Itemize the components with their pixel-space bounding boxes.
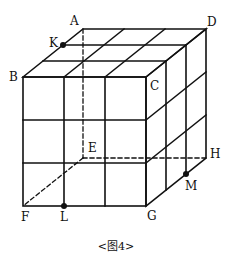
label-A: A [69, 14, 79, 28]
label-M: M [185, 179, 197, 193]
label-B: B [9, 70, 18, 84]
label-G: G [147, 209, 157, 223]
label-K: K [49, 36, 59, 50]
label-D: D [207, 15, 217, 29]
label-L: L [60, 210, 68, 224]
label-H: H [210, 147, 220, 161]
cube-diagram: A B C D E F G H K L M <图4> [0, 0, 233, 267]
figure-caption: <图4> [98, 240, 134, 253]
point-L [61, 203, 67, 209]
label-E: E [88, 141, 97, 155]
label-F: F [21, 210, 29, 224]
label-C: C [150, 79, 159, 93]
point-M [183, 171, 189, 177]
front-face [23, 77, 146, 206]
point-K [60, 42, 66, 48]
edge-EF [23, 158, 83, 206]
